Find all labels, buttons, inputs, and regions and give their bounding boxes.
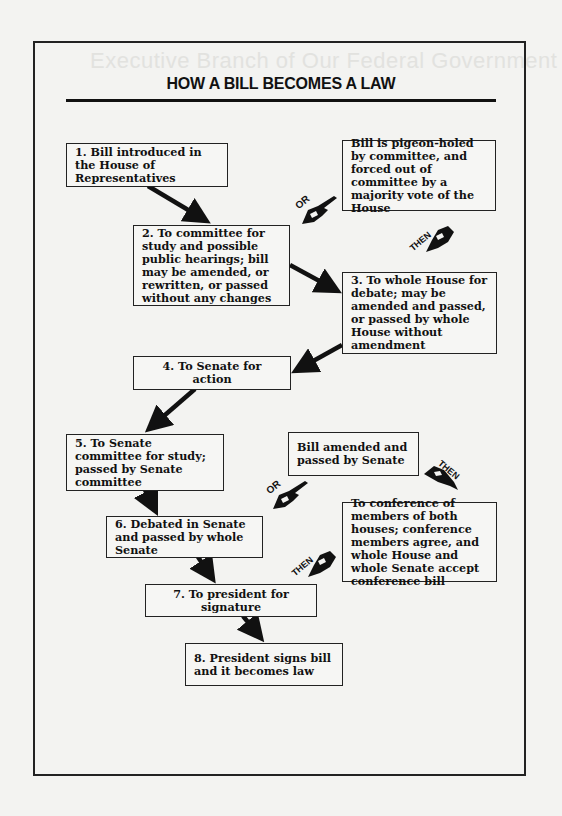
step-8-box: 8. President signs bill and it becomes l…: [185, 643, 343, 686]
or-pointing-hand-icon: OR: [294, 192, 340, 226]
step-6-box: 6. Debated in Senate and passed by whole…: [106, 516, 263, 558]
arrow-3-to-4: [297, 345, 342, 370]
senate-amended-box: Bill amended and passed by Senate: [288, 432, 419, 476]
then-pointing-hand-icon: THEN: [408, 220, 454, 254]
svg-text:OR: OR: [294, 192, 312, 211]
step-2-box: 2. To committee for study and possible p…: [133, 225, 290, 306]
step-7-text: 7. To president for signature: [154, 588, 308, 614]
arrow-6-to-7: [198, 557, 212, 578]
step-2-text: 2. To committee for study and possible p…: [142, 227, 281, 305]
step-5-box: 5. To Senate committee for study; passed…: [66, 434, 224, 491]
conference-text: To conference of members of both houses;…: [351, 497, 488, 588]
arrow-2-to-3: [290, 265, 336, 290]
step-7-box: 7. To president for signature: [145, 584, 317, 617]
arrow-5-to-6: [145, 490, 155, 510]
step-4-box: 4. To Senate for action: [133, 356, 291, 390]
step-1-text: 1. Bill introduced in the House of Repre…: [75, 146, 219, 185]
step-4-text: 4. To Senate for action: [142, 360, 282, 386]
or-pointing-hand-icon: OR: [265, 477, 311, 511]
arrow-1-to-2: [148, 186, 205, 220]
pigeon-holed-text: Bill is pigeon-holed by committee, and f…: [351, 137, 487, 215]
step-5-text: 5. To Senate committee for study; passed…: [75, 437, 215, 489]
arrow-7-to-8: [243, 616, 260, 637]
step-3-box: 3. To whole House for debate; may be ame…: [342, 272, 497, 354]
then-pointing-hand-icon: THEN: [420, 460, 466, 494]
senate-amended-text: Bill amended and passed by Senate: [297, 441, 410, 467]
then-pointing-hand-icon: THEN: [290, 545, 336, 579]
conference-box: To conference of members of both houses;…: [342, 502, 497, 582]
svg-text:OR: OR: [265, 477, 283, 496]
arrow-4-to-5: [150, 389, 195, 428]
step-8-text: 8. President signs bill and it becomes l…: [194, 652, 334, 678]
pigeon-holed-box: Bill is pigeon-holed by committee, and f…: [342, 140, 496, 211]
step-6-text: 6. Debated in Senate and passed by whole…: [115, 518, 254, 557]
step-1-box: 1. Bill introduced in the House of Repre…: [66, 143, 228, 187]
step-3-text: 3. To whole House for debate; may be ame…: [351, 274, 488, 352]
